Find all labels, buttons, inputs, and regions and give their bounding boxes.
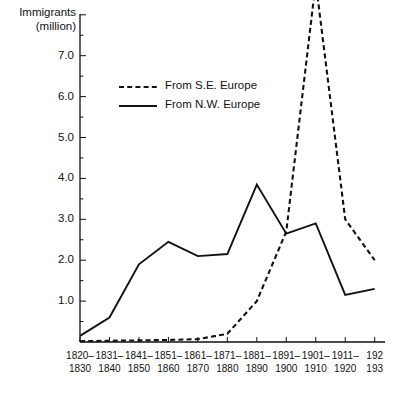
legend-label-se-europe: From S.E. Europe bbox=[165, 79, 257, 91]
series-line-nw-europe bbox=[80, 185, 375, 336]
legend-swatches bbox=[119, 87, 157, 106]
plot-area bbox=[0, 0, 394, 397]
immigration-line-chart: Immigrants (million) 1.02.03.04.05.06.07… bbox=[0, 0, 394, 397]
data-series bbox=[80, 0, 375, 341]
legend-label-nw-europe: From N.W. Europe bbox=[165, 98, 260, 110]
